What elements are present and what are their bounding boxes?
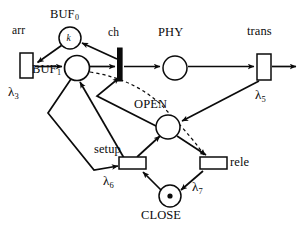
label-transition-arr: arr <box>12 25 25 37</box>
token-close <box>167 193 172 198</box>
transition-ch[interactable] <box>118 48 123 81</box>
label-token-k: k <box>67 34 71 44</box>
label-rate-lambda6: λ6 <box>103 174 114 190</box>
transition-setup[interactable] <box>119 157 146 169</box>
arc-ch-to-buf0 <box>82 43 117 59</box>
label-transition-setup: setup <box>94 143 121 156</box>
arc-trans-to-open <box>182 81 259 121</box>
label-rate-lambda3: λ3 <box>8 85 19 101</box>
label-rate-lambda7: λ7 <box>192 180 203 196</box>
label-transition-ch: ch <box>108 27 119 39</box>
arc-buf0-to-arr <box>38 46 62 63</box>
label-transition-trans: trans <box>247 25 272 38</box>
label-place-close: CLOSE <box>141 209 181 222</box>
label-place-buf1: BUF1 <box>32 63 61 77</box>
transition-rele[interactable] <box>200 157 227 169</box>
place-phy[interactable] <box>163 56 187 80</box>
petri-net-diagram: BUF0 k arr BUF1 λ3 ch PHY trans λ5 OPEN … <box>0 0 303 228</box>
transition-trans[interactable] <box>257 54 271 80</box>
arc-setup-to-open <box>137 136 160 157</box>
arc-close-to-setup <box>143 172 161 190</box>
label-place-phy: PHY <box>158 26 183 39</box>
place-open[interactable] <box>156 115 180 139</box>
label-place-buf0: BUF0 <box>50 8 79 22</box>
label-rate-lambda5: λ5 <box>255 88 266 104</box>
arc-buf1-to-setup <box>48 79 118 170</box>
place-buf1[interactable] <box>65 56 90 81</box>
label-transition-rele: rele <box>230 156 249 169</box>
label-place-open: OPEN <box>134 98 167 111</box>
